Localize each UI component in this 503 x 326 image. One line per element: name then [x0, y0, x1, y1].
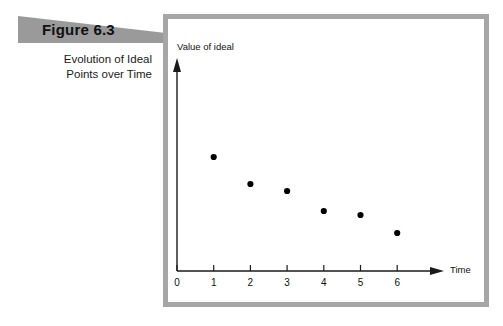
- data-point-series: [211, 154, 401, 236]
- x-tick-label-4: 4: [317, 277, 331, 288]
- figure-panel: Figure 6.3 Evolution of Ideal Points ove…: [0, 0, 503, 326]
- data-point: [321, 208, 327, 214]
- x-tick-label-6: 6: [390, 277, 404, 288]
- y-axis-title: Value of ideal: [177, 41, 234, 52]
- data-point: [357, 212, 363, 218]
- data-point: [284, 188, 290, 194]
- x-tick-label-2: 2: [243, 277, 257, 288]
- x-tick-label-3: 3: [280, 277, 294, 288]
- plot-canvas: [163, 14, 489, 307]
- data-point: [247, 181, 253, 187]
- figure-caption: Evolution of Ideal Points over Time: [6, 52, 152, 82]
- x-tick-label-0: 0: [170, 277, 184, 288]
- caption-line-1: Evolution of Ideal: [6, 52, 152, 67]
- x-axis-title: Time: [450, 264, 471, 275]
- caption-line-2: Points over Time: [6, 67, 152, 82]
- scatter-plot: Value of ideal Time 0 1 2 3 4 5 6: [163, 14, 489, 307]
- figure-number-label: Figure 6.3: [42, 21, 115, 38]
- x-tick-label-5: 5: [354, 277, 368, 288]
- x-axis-ticks: [177, 265, 397, 271]
- x-axis: [177, 267, 444, 275]
- data-point: [211, 154, 217, 160]
- y-axis: [173, 58, 181, 271]
- x-tick-label-1: 1: [207, 277, 221, 288]
- data-point: [394, 230, 400, 236]
